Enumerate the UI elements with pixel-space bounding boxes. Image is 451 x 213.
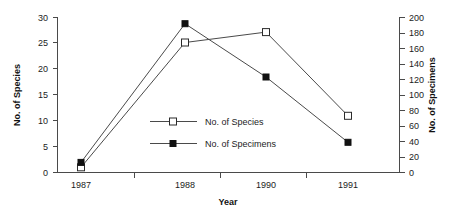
x-axis-ticks: [135, 173, 307, 178]
legend-entry-specimens: No. of Specimens: [150, 139, 277, 149]
left-tick-label-10: 10: [38, 116, 48, 126]
x-category-label-1988: 1988: [175, 180, 195, 190]
legend-marker-filled-square: [170, 141, 176, 147]
x-category-label-1987: 1987: [71, 180, 91, 190]
right-tick-label-140: 140: [409, 59, 424, 69]
data-point-species-1988: [182, 39, 189, 46]
left-tick-label-30: 30: [38, 13, 48, 23]
right-axis-title: No. of Specimens: [427, 57, 437, 133]
data-point-specimens-1987: [78, 159, 84, 165]
data-point-specimens-1988: [182, 21, 188, 27]
legend-label-species: No. of Species: [205, 117, 264, 127]
left-axis-ticks: 0 5 10 15 20 25 30: [38, 13, 58, 178]
right-tick-label-60: 60: [409, 121, 419, 131]
left-tick-label-0: 0: [43, 168, 48, 178]
right-tick-label-80: 80: [409, 106, 419, 116]
axes-group: [58, 17, 400, 173]
left-tick-label-20: 20: [38, 64, 48, 74]
legend-entry-species: No. of Species: [150, 117, 264, 127]
series-no-of-species: [78, 29, 352, 171]
data-point-specimens-1991: [345, 139, 351, 145]
right-tick-label-160: 160: [409, 44, 424, 54]
chart-container: 0 5 10 15 20 25 30 0 20 40 60 80 1: [0, 0, 451, 213]
data-point-specimens-1990: [263, 74, 269, 80]
x-axis-title: Year: [218, 197, 238, 207]
x-category-label-1990: 1990: [256, 180, 276, 190]
x-category-label-1991: 1991: [338, 180, 358, 190]
right-tick-label-120: 120: [409, 75, 424, 85]
right-tick-label-0: 0: [409, 168, 414, 178]
data-point-species-1990: [263, 29, 270, 36]
right-tick-label-100: 100: [409, 90, 424, 100]
legend-label-specimens: No. of Specimens: [205, 139, 277, 149]
left-tick-label-25: 25: [38, 38, 48, 48]
right-tick-label-200: 200: [409, 13, 424, 23]
line-chart-canvas: 0 5 10 15 20 25 30 0 20 40 60 80 1: [0, 0, 451, 213]
left-axis-title: No. of Species: [12, 64, 22, 126]
left-tick-label-5: 5: [43, 142, 48, 152]
left-tick-label-15: 15: [38, 90, 48, 100]
right-tick-label-40: 40: [409, 137, 419, 147]
chart-legend: No. of Species No. of Specimens: [150, 117, 277, 149]
data-point-species-1991: [345, 112, 352, 119]
right-tick-label-20: 20: [409, 152, 419, 162]
right-tick-label-180: 180: [409, 28, 424, 38]
right-axis-ticks: 0 20 40 60 80 100 120 140 160 180 200: [400, 13, 425, 178]
x-axis-category-labels: 1987 1988 1990 1991: [71, 180, 358, 190]
legend-marker-open-square: [170, 118, 177, 125]
